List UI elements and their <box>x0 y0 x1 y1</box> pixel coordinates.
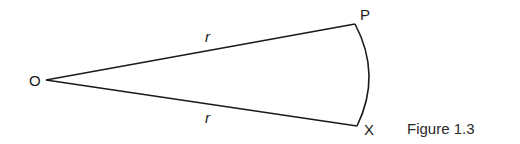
point-label-x: X <box>364 122 374 137</box>
radius-label-lower: r <box>205 110 210 125</box>
figure-caption: Figure 1.3 <box>407 121 475 136</box>
radius-label-upper: r <box>205 29 210 44</box>
arc-px <box>355 24 369 126</box>
point-label-p: P <box>360 7 370 22</box>
point-label-o: O <box>29 73 41 88</box>
radius-op-line <box>46 24 355 80</box>
radius-ox-line <box>46 80 357 126</box>
